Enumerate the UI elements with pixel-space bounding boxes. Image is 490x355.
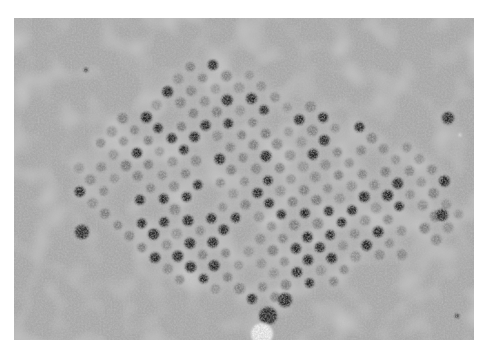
electron-micrograph xyxy=(0,0,490,355)
film-grain xyxy=(14,18,474,340)
